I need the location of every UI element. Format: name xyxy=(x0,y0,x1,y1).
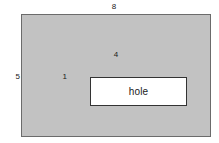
inner-hole-rectangle: hole xyxy=(90,77,187,106)
dimension-label-outer-width: 8 xyxy=(104,3,124,11)
dimension-label-hole-width: 4 xyxy=(106,51,126,59)
dimension-label-outer-height: 5 xyxy=(8,73,20,81)
diagram-canvas: hole 8 5 4 1 xyxy=(0,0,219,143)
dimension-label-hole-height: 1 xyxy=(55,73,67,81)
outer-plate-rectangle: hole xyxy=(21,14,211,137)
hole-label: hole xyxy=(129,87,149,97)
